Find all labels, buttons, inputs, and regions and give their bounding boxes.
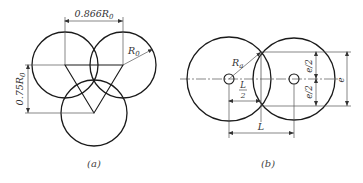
dim-label-e-half-top: e/2 (304, 59, 314, 72)
dim-label-e: e (336, 77, 346, 82)
dim-label-0866R0: 0.866R0 (75, 8, 114, 21)
dim-label-075R0: 0.75R0 (14, 72, 27, 105)
dim-label-half-L-num: L (239, 80, 246, 90)
caption-b: (b) (261, 158, 275, 169)
radius-label-Ra: Ra (231, 57, 243, 70)
panel-b: Ra e/2 e/2 e L 2 L (b) (180, 37, 351, 169)
panel-a: 0.75R0 0.866R0 R0 (a) (14, 8, 156, 169)
figure-canvas: 0.75R0 0.866R0 R0 (a) Ra (0, 0, 363, 183)
center-triangle (65, 65, 123, 113)
dim-label-e-half-bottom: e/2 (304, 85, 314, 98)
radius-label-R0: R0 (127, 45, 140, 58)
dim-label-L: L (257, 121, 264, 132)
caption-a: (a) (87, 158, 101, 169)
dim-label-half-L-den: 2 (239, 91, 245, 100)
